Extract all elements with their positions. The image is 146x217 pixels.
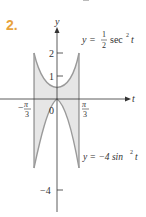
t-axis-label: t — [132, 93, 135, 104]
lower-eq: y = −4 sin — [82, 152, 123, 162]
t-axis-arrow-icon — [125, 97, 131, 102]
y-axis-label: y — [54, 16, 60, 27]
upper-eq-lhs: y = — [81, 34, 96, 45]
tick-right-pi: π — [82, 100, 87, 109]
tick-right-3: 3 — [83, 110, 87, 119]
graph: t y 2 1 −4 − π 3 0 π 3 y = 1 2 sec 2 t y… — [0, 0, 146, 217]
lower-eq-sup: 2 — [130, 149, 133, 155]
tick-label-2: 2 — [49, 48, 54, 59]
upper-eq-num: 1 — [102, 30, 106, 39]
tick-label-1: 1 — [49, 71, 54, 82]
shaded-region — [34, 53, 79, 168]
upper-eq-sup: 2 — [126, 32, 129, 38]
y-axis-arrow-icon — [55, 27, 60, 33]
upper-eq-rhs: sec — [110, 34, 123, 45]
lower-eq-var: t — [135, 152, 138, 162]
upper-eq-var: t — [131, 34, 134, 45]
tick-left-3: 3 — [25, 110, 29, 119]
tick-left-pi: π — [24, 100, 29, 109]
tick-label-m4: −4 — [40, 185, 51, 196]
origin-label: 0 — [49, 105, 54, 116]
upper-eq-den: 2 — [102, 41, 106, 50]
